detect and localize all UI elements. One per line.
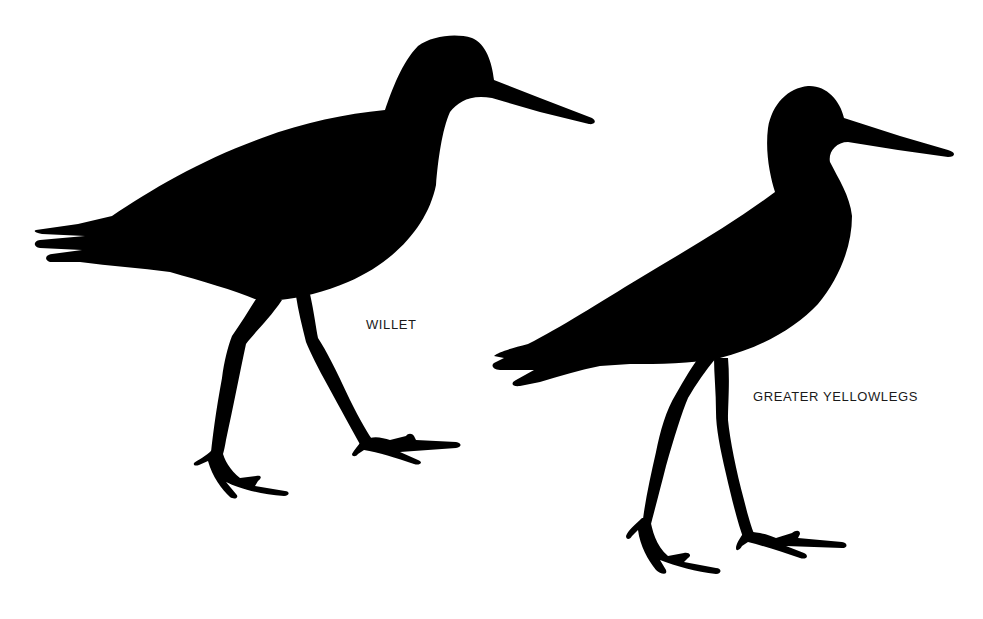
yellowlegs-foot-left <box>626 518 721 574</box>
willet-foot-left <box>194 450 289 498</box>
yellowlegs-leg-right <box>714 358 756 540</box>
yellowlegs-body <box>493 86 954 386</box>
greater-yellowlegs-silhouette <box>493 86 954 574</box>
silhouette-artwork <box>0 0 983 619</box>
yellowlegs-leg-left <box>642 356 716 528</box>
willet-body <box>35 36 595 302</box>
greater-yellowlegs-label: GREATER YELLOWLEGS <box>753 389 918 404</box>
willet-leg-left <box>210 296 282 462</box>
willet-silhouette <box>35 36 595 499</box>
bird-silhouette-figure: WILLET GREATER YELLOWLEGS <box>0 0 983 619</box>
willet-label: WILLET <box>366 317 417 332</box>
willet-leg-right <box>296 294 374 448</box>
yellowlegs-foot-right <box>736 531 847 559</box>
